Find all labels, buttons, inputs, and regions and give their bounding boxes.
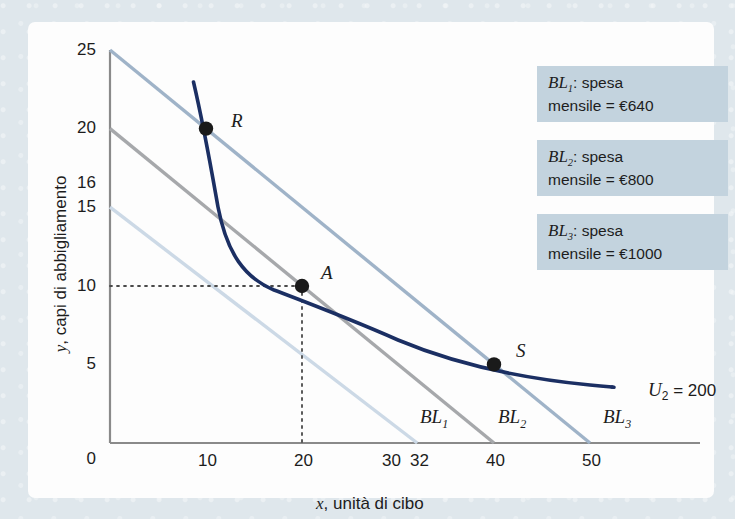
budget-line-bl3 [110,50,590,443]
curve-label-subscript: 2 [662,389,669,403]
data-point-s [487,357,501,371]
y-axis-title-text: , capi di abbigliamento [51,176,70,345]
point-label-a: A [321,262,333,284]
bl2-symbol: BL [498,406,520,427]
legend-item-bl3-line1: BL3: spesa [548,220,717,244]
legend-bl1-line1-rest: : spesa [573,74,623,91]
legend-bl2-line1-rest: : spesa [573,148,623,165]
x-axis-title-text: , unità di cibo [324,494,424,513]
legend-item-bl2-line2: mensile = €800 [548,170,717,190]
y-tick-25: 25 [52,40,96,60]
bl1-label: BL1 [420,406,448,432]
legend-item-bl3-line2: mensile = €1000 [548,244,717,264]
legend-bl1-symbol: BL [548,73,568,92]
figure-container: 25 20 16 15 10 5 0 10 20 30 32 40 50 x, … [0,0,735,519]
data-point-r [199,121,213,135]
bl2-subscript: 2 [520,417,526,431]
legend-item-bl3: BL3: spesa mensile = €1000 [537,214,728,270]
y-tick-20: 20 [52,118,96,138]
point-label-r: R [231,110,243,132]
bl2-label: BL2 [498,406,526,432]
bl3-label: BL3 [603,406,631,432]
curve-label-value: = 200 [673,381,716,400]
bl1-subscript: 1 [442,417,448,431]
x-tick-10: 10 [198,451,217,471]
y-tick-0: 0 [52,449,96,469]
legend-item-bl2-line1: BL2: spesa [548,146,717,170]
y-axis-title: y, capi di abbigliamento [51,139,71,389]
x-axis-variable: x [316,494,324,513]
legend-item-bl1-line1: BL1: spesa [548,72,717,96]
data-point-a [295,279,309,293]
x-tick-20: 20 [294,451,313,471]
legend-bl2-symbol: BL [548,147,568,166]
bl3-symbol: BL [603,406,625,427]
legend-item-bl1: BL1: spesa mensile = €640 [537,66,728,122]
x-axis-title: x, unità di cibo [316,494,424,514]
curve-label-symbol: U [648,379,662,400]
curve-label-u2: U2 = 200 [648,379,716,403]
x-tick-30: 30 [382,451,401,471]
budget-line-bl1 [110,207,417,443]
bl3-subscript: 3 [625,417,631,431]
x-tick-40: 40 [486,451,505,471]
point-label-s: S [516,340,526,362]
legend-bl3-symbol: BL [548,221,568,240]
chart-panel: 25 20 16 15 10 5 0 10 20 30 32 40 50 x, … [28,22,714,498]
legend-item-bl1-line2: mensile = €640 [548,96,717,116]
bl1-symbol: BL [420,406,442,427]
legend-item-bl2: BL2: spesa mensile = €800 [537,140,728,196]
y-axis-variable: y [51,345,70,353]
legend-bl3-line1-rest: : spesa [573,222,623,239]
x-tick-32: 32 [410,451,429,471]
x-tick-50: 50 [582,451,601,471]
